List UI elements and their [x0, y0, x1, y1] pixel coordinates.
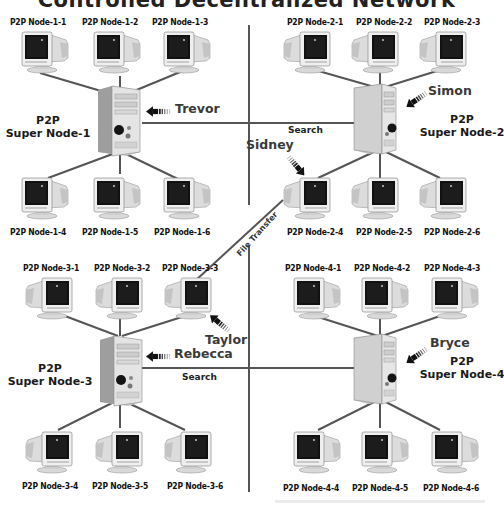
node-label: P2P Node-1-1 [10, 17, 66, 27]
super-node-label: P2P Super Node-1 [6, 114, 91, 140]
crt-monitor-icon[interactable] [24, 428, 78, 474]
crt-monitor-icon[interactable] [158, 28, 212, 74]
node-label: P2P Node-4-1 [285, 263, 341, 273]
node-label: P2P Node-2-6 [424, 227, 480, 237]
crt-monitor-icon[interactable] [16, 28, 70, 74]
user-label-bryce: Bryce [430, 335, 470, 350]
node-label: P2P Node-1-2 [82, 17, 138, 27]
server-tower-icon[interactable] [352, 82, 398, 156]
crt-monitor-icon[interactable] [16, 174, 70, 220]
user-label-rebecca: Rebecca [174, 346, 233, 361]
super-node-label: P2P Super Node-3 [8, 362, 93, 388]
crt-monitor-icon[interactable] [282, 174, 336, 220]
node-label: P2P Node-2-3 [424, 17, 480, 27]
node-label: P2P Node-1-6 [154, 227, 210, 237]
bottom-shadow-bar [275, 500, 485, 503]
node-label: P2P Node-3-4 [22, 481, 78, 491]
super-node-label: P2P Super Node-4 [420, 355, 504, 381]
crt-monitor-icon[interactable] [350, 28, 404, 74]
node-label: P2P Node-4-5 [352, 483, 408, 493]
node-label: P2P Node-3-2 [94, 263, 150, 273]
crt-monitor-icon[interactable] [418, 174, 472, 220]
node-label: P2P Node-2-2 [356, 17, 412, 27]
search-link-label: Search [288, 125, 323, 135]
node-label: P2P Node-1-3 [152, 17, 208, 27]
crt-monitor-icon[interactable] [288, 274, 342, 320]
super-node-label-line2: Super Node-3 [8, 375, 93, 388]
super-node-label-line2: Super Node-1 [6, 127, 91, 140]
crt-monitor-icon[interactable] [356, 274, 410, 320]
crt-monitor-icon[interactable] [288, 428, 342, 474]
super-node-label-line1: P2P [8, 362, 93, 375]
crt-monitor-icon[interactable] [426, 274, 480, 320]
crt-monitor-icon[interactable] [356, 428, 410, 474]
super-node-label-line2: Super Node-4 [420, 368, 504, 381]
node-label: P2P Node-2-4 [287, 227, 343, 237]
node-label: P2P Node-3-6 [167, 481, 223, 491]
server-tower-icon[interactable] [96, 84, 142, 158]
crt-monitor-icon[interactable] [350, 174, 404, 220]
user-label-trevor: Trevor [175, 101, 220, 116]
node-label: P2P Node-4-2 [354, 263, 410, 273]
crt-monitor-icon[interactable] [163, 428, 217, 474]
node-label: P2P Node-2-1 [287, 17, 343, 27]
node-label: P2P Node-3-3 [162, 263, 218, 273]
striped-arrow-icon [146, 106, 172, 117]
node-label: P2P Node-1-4 [10, 227, 66, 237]
crt-monitor-icon[interactable] [94, 274, 148, 320]
striped-arrow-icon [146, 351, 172, 362]
super-node-label-line1: P2P [420, 355, 504, 368]
crt-monitor-icon[interactable] [418, 28, 472, 74]
user-label-sidney: Sidney [246, 137, 294, 152]
crt-monitor-icon[interactable] [282, 28, 336, 74]
crt-monitor-icon[interactable] [163, 274, 217, 320]
node-label: P2P Node-4-4 [283, 483, 339, 493]
node-label: P2P Node-2-5 [356, 227, 412, 237]
node-label: P2P Node-3-1 [23, 263, 79, 273]
super-node-label-line2: Super Node-2 [420, 126, 504, 139]
user-label-taylor: Taylor [205, 332, 247, 347]
crt-monitor-icon[interactable] [426, 428, 480, 474]
search-link-label: Search [182, 372, 217, 382]
server-tower-icon[interactable] [352, 332, 398, 406]
crt-monitor-icon[interactable] [88, 28, 142, 74]
crt-monitor-icon[interactable] [24, 274, 78, 320]
node-label: P2P Node-3-5 [92, 481, 148, 491]
server-tower-icon[interactable] [98, 334, 144, 408]
super-node-label-line1: P2P [420, 113, 504, 126]
super-node-label-line1: P2P [6, 114, 91, 127]
node-label: P2P Node-4-6 [423, 483, 479, 493]
user-label-simon: Simon [428, 83, 472, 98]
crt-monitor-icon[interactable] [88, 174, 142, 220]
node-label: P2P Node-4-3 [424, 263, 480, 273]
super-node-label: P2P Super Node-2 [420, 113, 504, 139]
crt-monitor-icon[interactable] [94, 428, 148, 474]
node-label: P2P Node-1-5 [82, 227, 138, 237]
crt-monitor-icon[interactable] [158, 174, 212, 220]
